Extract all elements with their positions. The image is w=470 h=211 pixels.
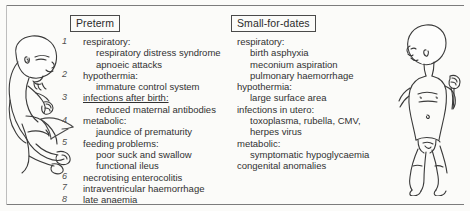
entry-label: metabolic: — [231, 138, 401, 149]
list-item: 3 infections after birth: reduced matern… — [70, 92, 230, 115]
entry-number: 6 — [57, 171, 67, 182]
column-preterm: Preterm 1 respiratory: respiratory distr… — [70, 13, 230, 205]
list-item: 1 respiratory: respiratory distress synd… — [70, 36, 230, 70]
entry-sub: meconium aspiration — [231, 59, 401, 70]
column-small-for-dates: Small-for-dates respiratory: birth asphy… — [231, 13, 401, 172]
entry-text: metabolic: — [83, 115, 126, 126]
preterm-list: 1 respiratory: respiratory distress synd… — [70, 36, 230, 205]
small-for-dates-list: respiratory: birth asphyxia meconium asp… — [231, 36, 401, 172]
small-for-dates-infant-illustration — [398, 16, 468, 196]
entry-sub: reduced maternal antibodies — [70, 104, 230, 115]
entry-sub: large surface area — [231, 92, 401, 103]
entry-sub: symptomatic hypoglycaemia — [231, 149, 401, 160]
list-item: 8 late anaemia — [70, 194, 230, 205]
entry-number: 4 — [57, 115, 67, 126]
list-item: hypothermia: large surface area — [231, 81, 401, 104]
list-item: 7 intraventricular haemorrhage — [70, 183, 230, 194]
entry-label: 7 intraventricular haemorrhage — [70, 183, 230, 194]
entry-label: 5 feeding problems: — [70, 138, 230, 149]
entry-text: necrotising enterocolitis — [83, 172, 182, 183]
entry-text: late anaemia — [83, 194, 137, 205]
entry-sub: immature control system — [70, 81, 230, 92]
entry-number: 2 — [57, 69, 67, 80]
list-item: 6 necrotising enterocolitis — [70, 172, 230, 183]
entry-sub: poor suck and swallow — [70, 149, 230, 160]
list-item: congenital anomalies — [231, 160, 401, 171]
entry-label: respiratory: — [231, 36, 401, 47]
entry-sub: birth asphyxia — [231, 47, 401, 58]
entry-sub: pulmonary haemorrhage — [231, 70, 401, 81]
entry-text: intraventricular haemorrhage — [83, 183, 204, 194]
entry-sub: apnoeic attacks — [70, 59, 230, 70]
entry-label: 2 hypothermia: — [70, 70, 230, 81]
preterm-infant-illustration — [2, 24, 74, 184]
list-item: 4 metabolic: jaundice of prematurity — [70, 115, 230, 138]
entry-label: infections in utero: — [231, 104, 401, 115]
entry-number: 5 — [57, 137, 67, 148]
entry-text: hypothermia: — [83, 70, 138, 81]
entry-label: 6 necrotising enterocolitis — [70, 172, 230, 183]
entry-sub: respiratory distress syndrome — [70, 47, 230, 58]
entry-label: 1 respiratory: — [70, 36, 230, 47]
list-item: metabolic: symptomatic hypoglycaemia — [231, 138, 401, 161]
entry-label: congenital anomalies — [231, 160, 401, 171]
entry-number: 8 — [57, 194, 67, 205]
entry-label: 3 infections after birth: — [70, 92, 230, 103]
top-rule — [6, 5, 464, 6]
heading-small-for-dates: Small-for-dates — [231, 15, 316, 32]
entry-label: 4 metabolic: — [70, 115, 230, 126]
list-item: infections in utero: toxoplasma, rubella… — [231, 104, 401, 138]
entry-text: respiratory: — [83, 36, 131, 47]
list-item: 2 hypothermia: immature control system — [70, 70, 230, 93]
entry-text: infections after birth: — [83, 92, 169, 103]
entry-sub: toxoplasma, rubella, CMV, — [231, 115, 401, 126]
entry-number: 1 — [57, 36, 67, 47]
entry-sub: functional ileus — [70, 160, 230, 171]
entry-label: 8 late anaemia — [70, 194, 230, 205]
entry-number: 7 — [57, 182, 67, 193]
entry-sub: herpes virus — [231, 126, 401, 137]
entry-sub: jaundice of prematurity — [70, 126, 230, 137]
figure-panel: Preterm 1 respiratory: respiratory distr… — [0, 0, 470, 211]
heading-preterm: Preterm — [70, 15, 120, 32]
entry-label: hypothermia: — [231, 81, 401, 92]
list-item: 5 feeding problems: poor suck and swallo… — [70, 138, 230, 172]
entry-text: feeding problems: — [83, 138, 159, 149]
list-item: respiratory: birth asphyxia meconium asp… — [231, 36, 401, 81]
entry-number: 3 — [57, 92, 67, 103]
